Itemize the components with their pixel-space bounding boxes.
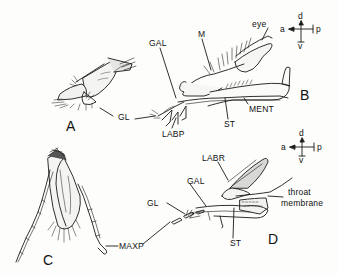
panel-label-b: B bbox=[300, 88, 309, 102]
orient-bottom-v: v bbox=[299, 156, 303, 165]
gl-a-leader bbox=[100, 108, 113, 116]
label-membrane: membrane bbox=[281, 199, 323, 208]
eye-b-leader bbox=[262, 28, 268, 40]
gl-d-leader bbox=[167, 203, 185, 214]
panel-label-a: A bbox=[66, 119, 75, 133]
label-gl-d: GL bbox=[147, 199, 159, 208]
panel-label-d: D bbox=[268, 232, 278, 246]
panel-label-c: C bbox=[43, 253, 53, 267]
orientation-cross-top bbox=[289, 21, 313, 42]
panel-a-drawing bbox=[52, 58, 136, 110]
label-labp-b: LABP bbox=[162, 130, 185, 139]
orient-bottom-a: a bbox=[281, 143, 286, 152]
label-labr-d: LABR bbox=[202, 154, 225, 163]
orient-top-v: v bbox=[298, 42, 302, 51]
gal-b-leader bbox=[160, 48, 176, 98]
throat-d-leader bbox=[268, 196, 283, 197]
label-st-b: ST bbox=[224, 120, 235, 129]
maxp-d-leader bbox=[143, 222, 170, 244]
label-gal-b: GAL bbox=[149, 39, 167, 48]
gl-b-leader bbox=[135, 116, 155, 119]
gal-d-leader bbox=[190, 184, 206, 206]
orient-top-p: p bbox=[316, 25, 321, 34]
panel-c-drawing bbox=[16, 148, 107, 262]
st-d-leader bbox=[233, 208, 234, 238]
label-gal-d: GAL bbox=[187, 177, 205, 186]
label-eye-b: eye bbox=[252, 20, 266, 29]
orient-bottom-d: d bbox=[299, 129, 304, 138]
label-gl-shared: GL bbox=[118, 113, 130, 122]
label-st-d: ST bbox=[230, 239, 241, 248]
labr-d-leader bbox=[218, 162, 228, 180]
label-m-b: M bbox=[198, 30, 205, 39]
panel-d-drawing bbox=[172, 158, 292, 228]
m-b-leader bbox=[202, 39, 211, 70]
label-throat: throat bbox=[288, 188, 311, 197]
orient-top-a: a bbox=[280, 25, 285, 34]
orient-top-d: d bbox=[298, 12, 303, 21]
orient-bottom-p: p bbox=[317, 143, 322, 152]
orientation-cross-bottom bbox=[290, 138, 314, 156]
label-ment-b: MENT bbox=[249, 105, 274, 114]
label-maxp: MAXP bbox=[119, 242, 144, 251]
mouthparts-figure: A B C D GL GAL M eye LABP ST MENT LABR G… bbox=[0, 0, 338, 275]
